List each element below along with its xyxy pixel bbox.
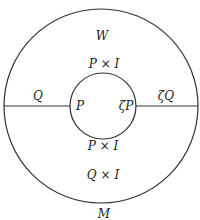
label-P-x-I-bottom: P × I (88, 140, 119, 152)
label-zeta-P: ζP (119, 100, 134, 112)
label-P-x-I-top: P × I (89, 58, 120, 70)
label-zeta-Q: ζQ (158, 90, 174, 102)
label-Q: Q (33, 90, 43, 102)
label-W: W (96, 30, 108, 42)
label-P: P (76, 100, 84, 112)
label-M: M (98, 208, 110, 220)
label-Q-x-I: Q × I (87, 169, 119, 181)
diagram: W P × I Q P ζP ζQ P × I Q × I M (0, 0, 200, 220)
